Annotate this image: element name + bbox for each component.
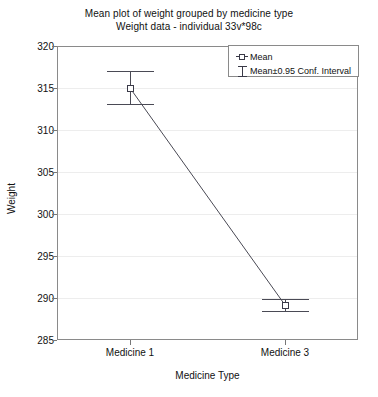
y-tick-label-305: 305: [14, 167, 54, 178]
y-axis-title: Weight: [6, 109, 17, 289]
gridline-295: [58, 256, 357, 257]
y-tick-label-290: 290: [14, 293, 54, 304]
gridline-290: [58, 298, 357, 299]
error-bar-cap-upper-medicine-1: [107, 71, 154, 72]
y-tick-label-315: 315: [14, 83, 54, 94]
y-tick-label-300: 300: [14, 209, 54, 220]
ibeam-errorbar-icon: [234, 64, 250, 78]
plot-area: [57, 46, 358, 340]
chart-title: Mean plot of weight grouped by medicine …: [0, 7, 378, 20]
error-bar-cap-upper-medicine-3: [262, 299, 309, 300]
legend: Mean Mean±0.95 Conf. Interval: [228, 45, 359, 77]
legend-item-conf-interval: Mean±0.95 Conf. Interval: [234, 61, 351, 75]
error-bar-cap-lower-medicine-1: [107, 104, 154, 105]
mean-marker-medicine-1: [127, 85, 134, 92]
gridline-315: [58, 88, 357, 89]
error-bar-cap-lower-medicine-3: [262, 311, 309, 312]
chart-title-block: Mean plot of weight grouped by medicine …: [0, 7, 378, 33]
y-tick-label-295: 295: [14, 251, 54, 262]
y-tick-label-285: 285: [14, 335, 54, 346]
x-tick-label-medicine-3: Medicine 3: [225, 347, 345, 358]
gridline-300: [58, 214, 357, 215]
x-tick-mark: [130, 340, 131, 345]
chart-subtitle: Weight data - individual 33v*98c: [0, 20, 378, 33]
x-axis-title: Medicine Type: [57, 370, 358, 381]
mean-plot-figure: Mean plot of weight grouped by medicine …: [0, 0, 378, 397]
x-tick-mark: [285, 340, 286, 345]
y-tick-mark: [52, 340, 57, 341]
gridline-305: [58, 172, 357, 173]
x-tick-label-medicine-1: Medicine 1: [70, 347, 190, 358]
legend-item-mean: Mean: [234, 47, 273, 61]
gridline-310: [58, 130, 357, 131]
y-tick-label-320: 320: [14, 41, 54, 52]
y-tick-label-310: 310: [14, 125, 54, 136]
mean-marker-medicine-3: [282, 302, 289, 309]
legend-label-conf-interval: Mean±0.95 Conf. Interval: [250, 64, 351, 78]
